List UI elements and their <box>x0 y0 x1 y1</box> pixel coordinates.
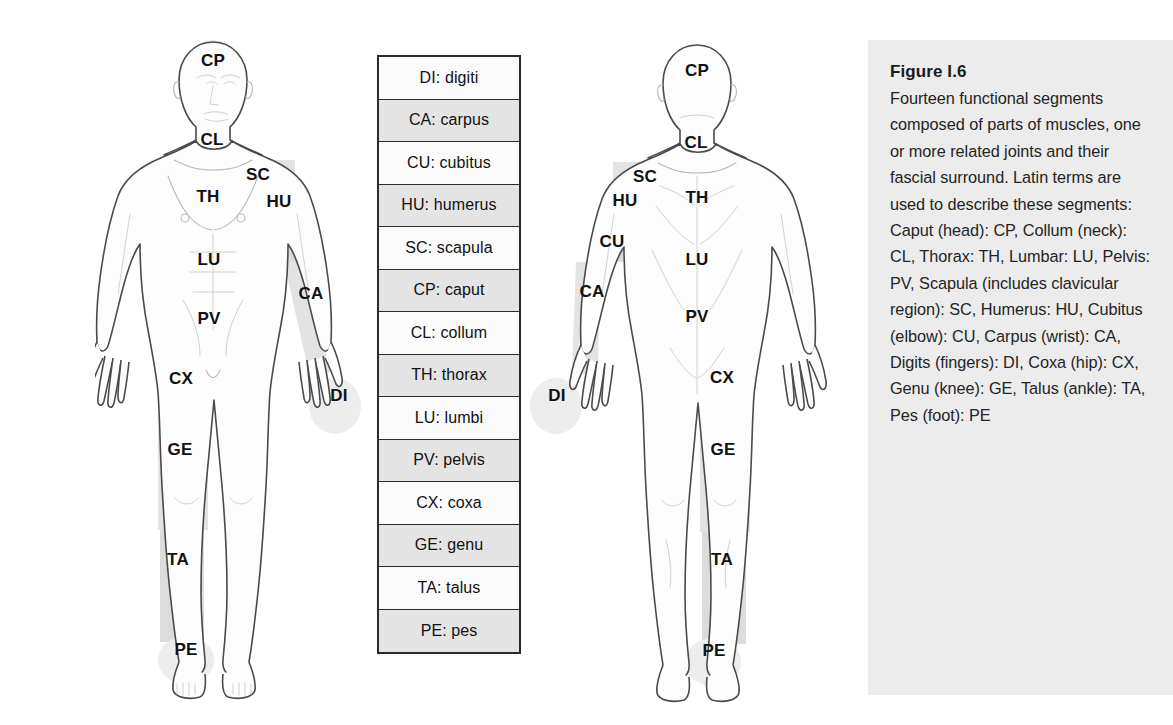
segment-label-hu: HU <box>613 191 638 210</box>
segment-label-di: DI <box>330 386 347 405</box>
legend-row: TH: thorax <box>379 355 519 398</box>
segment-label-cp: CP <box>685 61 709 80</box>
legend-row: PE: pes <box>379 610 519 653</box>
segment-label-ca: CA <box>299 284 324 303</box>
figure-caption-body: Fourteen functional segments composed of… <box>890 85 1153 428</box>
legend-row: GE: genu <box>379 525 519 568</box>
segment-label-cl: CL <box>684 133 707 152</box>
segment-label-pe: PE <box>174 640 197 659</box>
legend-row: SC: scapula <box>379 227 519 270</box>
segment-label-di: DI <box>548 386 565 405</box>
figure-caption-panel: Figure I.6 Fourteen functional segments … <box>868 40 1173 695</box>
segment-label-ge: GE <box>168 440 193 459</box>
legend-row: CX: coxa <box>379 482 519 525</box>
segment-label-pv: PV <box>685 307 709 326</box>
legend-row: DI: digiti <box>379 57 519 100</box>
legend-row: LU: lumbi <box>379 397 519 440</box>
segment-label-th: TH <box>685 188 708 207</box>
segment-label-hu: HU <box>267 192 292 211</box>
segment-label-lu: LU <box>685 250 708 269</box>
segment-label-sc: SC <box>246 165 270 184</box>
legend-row: TA: talus <box>379 567 519 610</box>
segment-label-cl: CL <box>200 130 223 149</box>
legend-row: PV: pelvis <box>379 440 519 483</box>
segment-label-th: TH <box>196 187 219 206</box>
segment-label-cp: CP <box>201 51 225 70</box>
segment-label-cu: CU <box>600 232 625 251</box>
legend-row: CP: caput <box>379 270 519 313</box>
segment-label-ge: GE <box>711 440 736 459</box>
segment-label-cx: CX <box>169 369 193 388</box>
legend-row: CL: collum <box>379 312 519 355</box>
posterior-body-diagram: CPCLSCTHHUCUCADILUPVCXGETAPE <box>530 0 870 725</box>
legend-row: CA: carpus <box>379 100 519 143</box>
segment-label-ta: TA <box>711 550 733 569</box>
segment-abbreviation-table: DI: digitiCA: carpusCU: cubitusHU: humer… <box>377 55 521 654</box>
segment-label-sc: SC <box>633 167 657 186</box>
anterior-body-diagram: CPCLSCTHHULUPVCADICXGETAPE <box>95 0 365 725</box>
segment-label-cx: CX <box>710 368 734 387</box>
segment-label-pv: PV <box>197 309 221 328</box>
legend-row: CU: cubitus <box>379 142 519 185</box>
segment-label-ta: TA <box>167 550 189 569</box>
legend-row: HU: humerus <box>379 185 519 228</box>
segment-label-ca: CA <box>580 282 605 301</box>
segment-label-pe: PE <box>702 641 725 660</box>
figure-caption-title: Figure I.6 <box>890 62 1153 82</box>
segment-label-lu: LU <box>197 250 220 269</box>
